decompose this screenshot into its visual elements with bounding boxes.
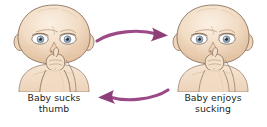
arrow-left (98, 90, 168, 104)
caption-line-1: Baby sucks (2, 92, 106, 103)
caption-baby-sucks-thumb: Baby sucks thumb (2, 92, 106, 114)
node-baby-enjoys-sucking: Baby enjoys sucking (161, 0, 265, 127)
caption-baby-enjoys-sucking: Baby enjoys sucking (161, 92, 265, 114)
node-baby-sucks-thumb: Baby sucks thumb (2, 0, 106, 127)
caption-line-1: Baby enjoys (161, 92, 265, 103)
caption-line-2: thumb (2, 103, 106, 114)
baby-sucking-thumb-illustration (161, 2, 265, 92)
baby-sucking-cycle-figure: Baby sucks thumb (0, 0, 267, 127)
caption-line-2: sucking (161, 103, 265, 114)
arrow-right (97, 28, 168, 42)
baby-sucking-thumb-illustration (2, 2, 106, 92)
